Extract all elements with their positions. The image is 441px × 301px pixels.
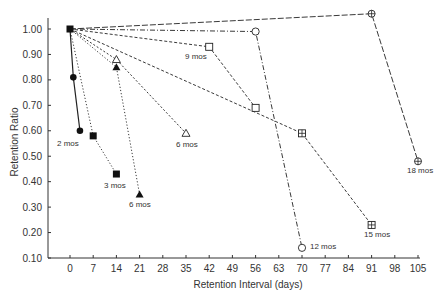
series-label: 12 mos — [310, 242, 336, 251]
y-tick-label: 0.50 — [23, 151, 43, 162]
y-axis-label: Retention Ratio — [9, 107, 20, 176]
series-label: 6 mos — [176, 140, 198, 149]
series-markers — [67, 10, 422, 251]
circled-plus-marker — [368, 10, 375, 17]
series-label: 3 mos — [104, 181, 126, 190]
y-tick-label: 1.00 — [23, 24, 43, 35]
x-axis-label: Retention Interval (days) — [194, 279, 303, 290]
series-line-5 — [70, 29, 302, 248]
series-lines — [70, 14, 418, 248]
circled-plus-marker — [415, 158, 422, 165]
filled-square-marker — [67, 26, 74, 33]
x-tick-label: 91 — [366, 263, 378, 274]
x-tick-label: 28 — [157, 263, 169, 274]
x-tick-label: 7 — [90, 263, 96, 274]
x-tick-label: 105 — [410, 263, 427, 274]
series-labels: 2 mos3 mos6 mos6 mos9 mos12 mos15 mos18 … — [57, 52, 433, 251]
squared-plus-marker — [299, 130, 306, 137]
x-tick-label: 77 — [320, 263, 332, 274]
x-tick-label: 98 — [389, 263, 401, 274]
open-square-marker — [252, 104, 259, 111]
series-label: 2 mos — [57, 139, 79, 148]
y-tick-label: 0.90 — [23, 49, 43, 60]
x-tick-label: 42 — [204, 263, 216, 274]
open-circle-marker — [252, 28, 259, 35]
series-line-1 — [70, 29, 116, 174]
y-tick-label: 0.20 — [23, 227, 43, 238]
filled-square-marker — [90, 132, 97, 139]
y-tick-label: 0.60 — [23, 125, 43, 136]
filled-triangle-marker — [136, 190, 144, 197]
x-tick-label: 70 — [296, 263, 308, 274]
x-tick-label: 35 — [180, 263, 192, 274]
x-tick-label: 49 — [227, 263, 239, 274]
series-label: 6 mos — [129, 200, 151, 209]
x-tick-label: 14 — [111, 263, 123, 274]
y-tick-label: 0.10 — [23, 253, 43, 264]
open-triangle-marker — [112, 56, 120, 63]
y-tick-label: 0.70 — [23, 100, 43, 111]
x-tick-label: 84 — [343, 263, 355, 274]
filled-triangle-marker — [112, 63, 120, 70]
retention-chart: 0.100.200.300.400.500.600.700.800.901.00… — [0, 0, 441, 301]
series-label: 9 mos — [185, 52, 207, 61]
open-circle-marker — [298, 244, 305, 251]
series-label: 15 mos — [364, 230, 390, 239]
filled-circle-marker — [77, 127, 84, 134]
squared-plus-marker — [368, 221, 375, 228]
filled-circle-marker — [70, 74, 77, 81]
x-tick-label: 21 — [134, 263, 146, 274]
series-line-3 — [70, 29, 186, 133]
y-tick-label: 0.30 — [23, 202, 43, 213]
y-tick-label: 0.40 — [23, 176, 43, 187]
series-label: 18 mos — [407, 166, 433, 175]
open-square-marker — [206, 43, 213, 50]
series-line-2 — [70, 29, 140, 194]
x-tick-label: 56 — [250, 263, 262, 274]
x-tick-label: 63 — [273, 263, 285, 274]
y-tick-label: 0.80 — [23, 74, 43, 85]
x-tick-label: 0 — [67, 263, 73, 274]
series-line-4 — [70, 29, 256, 108]
filled-square-marker — [113, 171, 120, 178]
